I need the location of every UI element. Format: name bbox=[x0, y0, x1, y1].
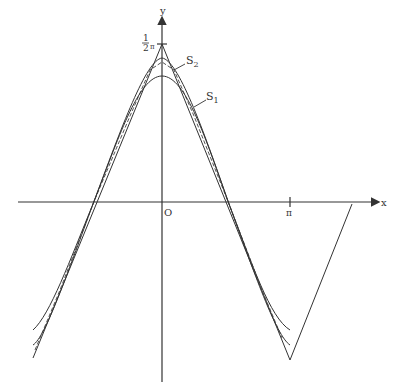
peak-label-pi: π bbox=[150, 43, 155, 51]
s1-label: S1 bbox=[206, 90, 219, 105]
s1-label-sub: 1 bbox=[214, 96, 219, 105]
origin-label: O bbox=[164, 207, 172, 218]
s2-pointer bbox=[174, 64, 185, 70]
pi-label: π bbox=[286, 208, 292, 218]
peak-label-denominator: 2 bbox=[143, 43, 149, 53]
s2-label-main: S bbox=[186, 54, 194, 67]
y-axis-label: y bbox=[159, 5, 166, 16]
fourier-diagram: y x O π 1 2 π S2 S1 bbox=[0, 0, 397, 388]
s2-label-sub: 2 bbox=[194, 60, 199, 69]
peak-label-numerator: 1 bbox=[143, 33, 149, 43]
s2-label: S2 bbox=[186, 54, 199, 69]
s1-label-main: S bbox=[206, 90, 214, 103]
x-axis-label: x bbox=[381, 197, 387, 208]
s1-pointer bbox=[194, 100, 206, 107]
dashed-approx bbox=[35, 62, 282, 350]
